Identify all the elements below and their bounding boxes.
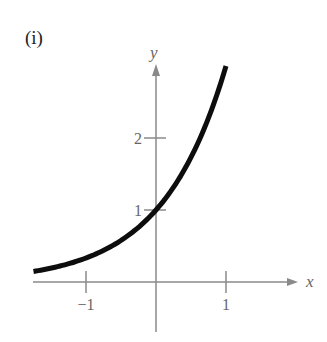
chart: −1112 x y: [0, 0, 327, 342]
y-axis-label: y: [148, 43, 158, 62]
y-axis-arrow-icon: [152, 64, 160, 76]
x-axis-label: x: [305, 272, 314, 291]
x-tick-label: −1: [77, 296, 94, 313]
x-tick-label: 1: [222, 296, 230, 313]
x-axis-arrow-icon: [287, 278, 298, 286]
ticks: −1112: [77, 130, 230, 313]
y-tick-label: 1: [134, 202, 142, 219]
curve-line: [34, 66, 227, 271]
y-tick-label: 2: [134, 130, 142, 147]
